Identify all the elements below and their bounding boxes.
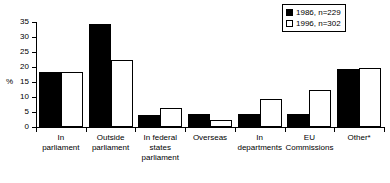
legend-label-1986: 1986, n=229 <box>296 8 341 17</box>
x-axis-tick <box>285 127 286 132</box>
y-axis-title: % <box>6 78 13 86</box>
x-axis-line <box>36 127 384 128</box>
y-axis-tick: 35 <box>32 22 37 23</box>
x-axis-category-label: In federal states parliament <box>135 133 185 163</box>
y-axis-tick: 5 <box>32 112 37 113</box>
bar-1996 <box>260 99 282 127</box>
bar-1996 <box>210 120 232 127</box>
x-axis-category-label: Other* <box>334 133 384 143</box>
x-axis-tick <box>235 127 236 132</box>
y-axis-tick-label: 5 <box>25 107 29 116</box>
bar-1986 <box>337 69 359 128</box>
bar-1996 <box>111 60 133 127</box>
bar-1996 <box>309 90 331 127</box>
x-axis-tick <box>384 127 385 132</box>
y-axis-tick-label: 0 <box>25 122 29 131</box>
y-axis-tick: 10 <box>32 97 37 98</box>
bar-1986 <box>287 114 309 128</box>
bar-1996 <box>160 108 182 127</box>
y-axis-tick-label: 35 <box>20 17 29 26</box>
y-axis-tick-label: 10 <box>20 92 29 101</box>
bar-1996 <box>61 72 83 127</box>
x-axis-tick <box>135 127 136 132</box>
y-axis-tick-label: 30 <box>20 32 29 41</box>
x-axis-category-label: Overseas <box>185 133 235 143</box>
legend-item-1986: 1986, n=229 <box>286 7 341 18</box>
x-axis-tick <box>86 127 87 132</box>
y-axis-tick: 25 <box>32 52 37 53</box>
bar-1986 <box>39 72 61 127</box>
bar-1986 <box>188 114 210 127</box>
y-axis-tick-label: 15 <box>20 77 29 86</box>
bar-1986 <box>89 24 111 127</box>
bar-1996 <box>359 68 381 127</box>
y-axis-tick-label: 20 <box>20 62 29 71</box>
x-axis-tick <box>36 127 37 132</box>
bar-chart: 1986, n=229 1996, n=302 % 05101520253035… <box>0 0 390 183</box>
x-axis-category-label: In parliament <box>36 133 86 153</box>
x-axis-tick <box>185 127 186 132</box>
bar-1986 <box>238 114 260 127</box>
x-axis-category-label: Outside parliament <box>86 133 136 153</box>
y-axis-tick: 30 <box>32 37 37 38</box>
filled-square-icon <box>286 9 293 16</box>
x-axis-category-label: In departments <box>235 133 285 153</box>
plot-area: 05101520253035 <box>36 22 384 127</box>
y-axis-tick-label: 25 <box>20 47 29 56</box>
x-axis-tick <box>334 127 335 132</box>
bar-1986 <box>138 115 160 127</box>
y-axis-tick: 20 <box>32 67 37 68</box>
y-axis-tick: 15 <box>32 82 37 83</box>
x-axis-category-label: EU Commissions <box>285 133 335 153</box>
